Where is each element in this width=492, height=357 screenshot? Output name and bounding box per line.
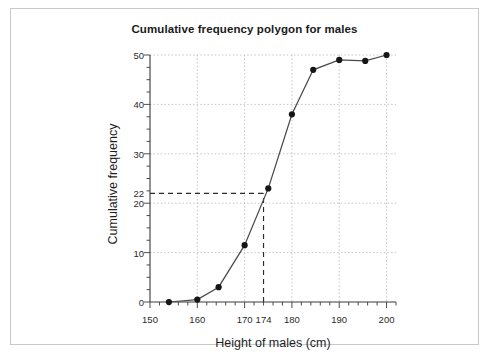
x-tick-label: 180: [272, 314, 312, 325]
plot-svg: [150, 55, 396, 302]
gridlines: [150, 55, 396, 302]
data-point: [166, 299, 172, 305]
x-axis-label: Height of males (cm): [150, 336, 396, 350]
data-point: [215, 284, 221, 290]
data-point: [265, 185, 271, 191]
x-tick-label: 200: [367, 314, 407, 325]
chart-frame: Cumulative frequency polygon for males C…: [10, 8, 479, 345]
data-point: [289, 111, 295, 117]
annotation-lines: [150, 193, 264, 302]
data-point: [383, 52, 389, 58]
data-point: [242, 242, 248, 248]
y-tick-label: 50: [110, 50, 144, 61]
x-tick-label: 150: [130, 314, 170, 325]
data-point: [362, 58, 368, 64]
chart-title: Cumulative frequency polygon for males: [11, 23, 478, 35]
data-point: [310, 67, 316, 73]
series-polyline: [169, 55, 387, 302]
x-tick-label: 160: [177, 314, 217, 325]
data-point: [194, 296, 200, 302]
y-tick-label: 22: [110, 188, 144, 199]
y-tick-label: 0: [110, 297, 144, 308]
data-point: [336, 57, 342, 63]
series-paths: [169, 55, 387, 302]
x-tick-label: 190: [319, 314, 359, 325]
y-tick-label: 20: [110, 198, 144, 209]
y-tick-label: 10: [110, 247, 144, 258]
series-points: [166, 52, 390, 305]
y-tick-label: 30: [110, 148, 144, 159]
plot-area: 0102022304050 150160170174180190200: [150, 55, 396, 302]
y-axis-label-text: Cumulative frequency: [106, 124, 120, 245]
y-tick-label: 40: [110, 99, 144, 110]
axis-lines: [150, 55, 396, 302]
